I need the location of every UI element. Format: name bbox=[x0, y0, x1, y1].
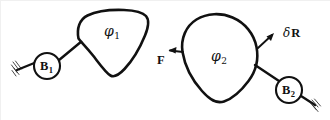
displacement-dr-arrow bbox=[258, 33, 274, 48]
link-body2-to-b2 bbox=[255, 65, 279, 81]
body-1-outline bbox=[78, 10, 148, 76]
force-f-label: F bbox=[157, 54, 165, 67]
body-2-label: φ2 bbox=[211, 49, 227, 66]
joint-b1-label: B1 bbox=[40, 60, 53, 75]
mechanics-figure: φ1 φ2 B1 B2 F δR bbox=[0, 0, 330, 120]
body-1-label: φ1 bbox=[104, 24, 120, 41]
joint-b2-label: B2 bbox=[282, 84, 295, 99]
link-b1-to-body1 bbox=[59, 41, 83, 61]
displacement-dr-label: δR bbox=[283, 27, 300, 40]
link-b2-to-ground bbox=[300, 95, 316, 105]
